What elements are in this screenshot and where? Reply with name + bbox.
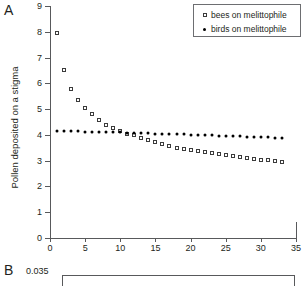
data-point-birds [203,134,206,137]
filled-circle-icon [199,28,210,31]
x-tick [191,238,192,242]
y-tick-label: 8 [28,27,42,37]
data-point-bees [238,155,242,159]
panel-b-y-axis-top-label: 0.035 [26,266,49,276]
y-tick-label: 3 [28,156,42,166]
data-point-birds [245,135,248,138]
x-tick [261,238,262,242]
data-point-birds [133,132,136,135]
data-point-birds [266,136,269,139]
data-point-birds [147,132,150,135]
panel-a-label: A [4,2,13,18]
y-tick-label: 6 [28,78,42,88]
y-tick-label: 1 [28,207,42,217]
data-point-birds [91,130,94,133]
data-point-birds [175,133,178,136]
x-tick [120,238,121,242]
y-tick-label: 7 [28,53,42,63]
y-tick-label: 2 [28,181,42,191]
data-point-bees [182,147,186,151]
data-point-bees [76,98,80,102]
y-tick-label: 0 [28,233,42,243]
data-point-birds [252,135,255,138]
data-point-bees [104,123,108,127]
data-point-bees [97,118,101,122]
data-point-bees [203,150,207,154]
x-tick [226,238,227,242]
x-axis-right-cap [296,222,297,239]
data-point-bees [62,68,66,72]
data-point-birds [154,132,157,135]
data-point-birds [70,130,73,133]
data-point-birds [259,136,262,139]
data-point-bees [146,138,150,142]
y-tick-label: 4 [28,130,42,140]
data-point-birds [63,130,66,133]
y-axis-title: Pollen deposited on a stigma [9,28,20,228]
data-point-birds [168,133,171,136]
data-point-birds [280,136,283,139]
data-point-bees [259,158,263,162]
open-square-icon [199,13,210,17]
panel-a: A Pollen deposited on a stigma 012345678… [0,0,307,252]
legend-item-birds: birds on melittophile [199,22,296,36]
data-point-birds [224,134,227,137]
x-tick [85,238,86,242]
legend-label-bees: bees on melittophile [211,10,287,20]
data-point-bees [280,160,284,164]
data-point-bees [224,153,228,157]
data-point-birds [119,131,122,134]
data-point-bees [245,156,249,160]
data-point-birds [140,132,143,135]
data-point-bees [266,158,270,162]
data-point-birds [105,130,108,133]
data-point-bees [217,152,221,156]
data-point-birds [126,131,129,134]
data-point-birds [210,134,213,137]
data-point-bees [153,140,157,144]
data-point-bees [90,112,94,116]
data-point-bees [189,148,193,152]
data-point-bees [231,154,235,158]
x-tick [50,238,51,242]
y-tick-label: 9 [28,1,42,11]
data-point-birds [56,130,59,133]
data-point-bees [252,157,256,161]
data-point-bees [175,146,179,150]
panel-b-tick-left [62,275,63,286]
data-point-birds [196,133,199,136]
data-point-birds [189,133,192,136]
data-point-bees [273,159,277,163]
data-point-bees [160,142,164,146]
data-point-birds [182,133,185,136]
legend-label-birds: birds on melittophile [211,24,287,34]
data-point-bees [139,136,143,140]
panel-b-tick-right [294,275,295,286]
y-tick-label: 5 [28,104,42,114]
data-point-bees [210,151,214,155]
x-tick [155,238,156,242]
data-point-birds [231,135,234,138]
data-point-birds [238,135,241,138]
data-point-bees [83,106,87,110]
panel-b-frame-top [62,275,295,276]
data-point-bees [196,149,200,153]
x-tick [296,238,297,242]
data-point-birds [77,130,80,133]
data-point-bees [55,31,59,35]
data-point-birds [273,136,276,139]
data-point-bees [69,87,73,91]
data-point-birds [217,134,220,137]
panel-b-label: B [4,262,13,278]
data-point-bees [167,144,171,148]
chart-legend: bees on melittophile birds on melittophi… [193,4,301,37]
plot-area-a [50,6,296,238]
legend-item-bees: bees on melittophile [199,8,296,22]
data-point-birds [161,132,164,135]
data-point-birds [84,130,87,133]
data-point-birds [112,131,115,134]
data-point-birds [98,130,101,133]
